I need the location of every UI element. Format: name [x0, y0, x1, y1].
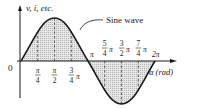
tick-3pi-over-4: 3 4 π [69, 66, 80, 85]
tick-pi-over-2: π 2 [52, 66, 57, 85]
svg-text:π: π [76, 72, 80, 81]
tick-pi-over-4: π 4 [35, 66, 41, 85]
svg-text:4: 4 [36, 76, 40, 85]
sine-wave-diagram: v, i, etc. Sine wave 0 α (rad) π 4 π 2 3… [0, 0, 203, 109]
svg-text:2: 2 [120, 49, 124, 58]
svg-text:4: 4 [69, 76, 73, 85]
svg-text:π: π [143, 45, 147, 54]
tick-3pi-over-2: 3 2 π [119, 39, 130, 58]
curve-label: Sine wave [106, 15, 143, 25]
svg-text:4: 4 [103, 49, 107, 58]
tick-5pi-over-4: 5 4 π [102, 39, 113, 58]
x-axis-label: α (rad) [149, 67, 173, 77]
svg-text:π: π [36, 66, 40, 75]
svg-text:7: 7 [136, 39, 140, 48]
svg-text:π: π [109, 45, 113, 54]
svg-text:3: 3 [120, 39, 124, 48]
svg-text:4: 4 [136, 49, 140, 58]
origin-label: 0 [8, 63, 13, 73]
y-axis-label: v, i, etc. [26, 3, 54, 13]
svg-text:π: π [53, 66, 57, 75]
tick-7pi-over-4: 7 4 π [136, 39, 147, 58]
svg-text:π: π [126, 45, 130, 54]
y-axis-arrow-icon [18, 5, 22, 11]
curve-label-pointer [80, 20, 103, 30]
svg-text:3: 3 [69, 66, 73, 75]
svg-text:5: 5 [103, 39, 107, 48]
tick-pi: π [90, 50, 94, 59]
svg-text:2: 2 [53, 76, 57, 85]
x-axis-arrow-icon [170, 59, 177, 63]
tick-2pi: 2π [152, 50, 160, 59]
